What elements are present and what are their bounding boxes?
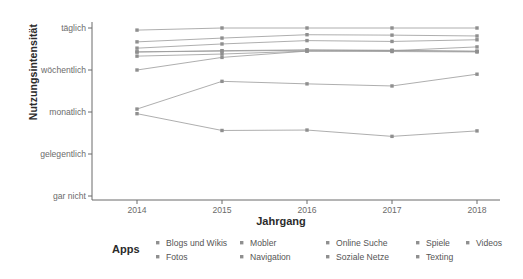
x-tick-2015: 2015 [212,206,231,215]
data-point-marker [305,82,308,85]
legend-item-videos[interactable]: Videos [462,237,502,248]
data-point-marker [135,40,138,43]
data-point-marker [220,56,223,59]
point-marker-icon [152,237,163,248]
legend-item-soziale-netze[interactable]: Soziale Netze [322,251,389,262]
point-marker-icon [322,251,333,262]
data-point-marker [305,26,308,29]
legend-title: Apps [112,243,140,255]
data-point-marker [220,49,223,52]
data-point-marker [475,34,478,37]
data-point-marker [475,73,478,76]
data-point-marker [305,33,308,36]
point-marker-icon [412,251,423,262]
legend-item-spiele[interactable]: Spiele [412,237,450,248]
x-tick-2016: 2016 [297,206,316,215]
legend: Apps Blogs und WikisFotosMoblerNavigatio… [0,233,523,279]
data-point-marker [305,49,308,52]
data-point-marker [135,107,138,110]
data-point-marker [135,46,138,49]
point-marker-icon [236,237,247,248]
legend-item-texting[interactable]: Texting [412,251,453,262]
legend-item-label: Videos [476,238,502,248]
series-online-suche [135,26,478,32]
data-point-marker [220,129,223,132]
x-tick-2018: 2018 [467,206,486,215]
data-point-marker [220,36,223,39]
point-marker-icon [412,237,423,248]
legend-item-label: Online Suche [336,238,388,248]
data-point-marker [220,80,223,83]
point-marker-icon [322,237,333,248]
x-axis-title: Jahrgang [96,215,466,227]
legend-item-navigation[interactable]: Navigation [236,251,291,262]
point-marker-icon [152,251,163,262]
data-point-marker [390,33,393,36]
legend-item-label: Mobler [250,238,276,248]
data-point-marker [475,45,478,48]
legend-item-label: Soziale Netze [336,252,389,262]
legend-item-fotos[interactable]: Fotos [152,251,188,262]
data-point-marker [390,26,393,29]
point-marker-icon [462,237,473,248]
x-tick-2017: 2017 [382,206,401,215]
legend-item-label: Spiele [426,238,450,248]
series-blogs-und-wikis [135,112,478,138]
legend-item-online-suche[interactable]: Online Suche [322,237,388,248]
chart-container: Nutzungsintensität täglich wöchentlich m… [0,0,523,279]
legend-item-label: Fotos [166,252,188,262]
series-line [137,74,477,109]
data-point-marker [475,129,478,132]
point-marker-icon [236,251,247,262]
data-series-layer [135,26,478,138]
data-point-marker [305,128,308,131]
legend-item-label: Navigation [250,252,291,262]
data-point-marker [390,40,393,43]
data-point-marker [220,52,223,55]
legend-item-label: Texting [426,252,453,262]
x-axis [92,200,500,204]
y-axis [88,22,92,200]
data-point-marker [475,26,478,29]
data-point-marker [390,49,393,52]
data-point-marker [475,38,478,41]
data-point-marker [220,42,223,45]
legend-item-blogs-und-wikis[interactable]: Blogs und Wikis [152,237,227,248]
data-point-marker [135,68,138,71]
data-point-marker [135,54,138,57]
x-tick-2014: 2014 [127,206,146,215]
legend-item-label: Blogs und Wikis [166,238,227,248]
data-point-marker [135,112,138,115]
data-point-marker [475,50,478,53]
data-point-marker [305,39,308,42]
data-point-marker [390,84,393,87]
data-point-marker [220,26,223,29]
data-point-marker [135,50,138,53]
legend-item-mobler[interactable]: Mobler [236,237,276,248]
data-point-marker [135,28,138,31]
data-point-marker [390,135,393,138]
series-line [137,114,477,137]
series-spiele [135,73,478,111]
